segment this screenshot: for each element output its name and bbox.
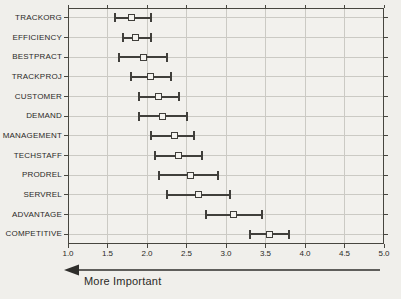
y-tick-mark-left <box>64 214 68 215</box>
error-bar-cap-high <box>217 171 219 180</box>
x-tick-label: 5.0 <box>373 249 395 259</box>
error-bar-cap-high <box>150 33 152 42</box>
y-tick-mark-left <box>64 57 68 58</box>
y-tick-mark-right <box>384 17 388 18</box>
error-bar-cap-high <box>288 230 290 239</box>
gridline-vertical <box>305 9 306 243</box>
category-label: DEMAND <box>0 111 62 121</box>
mean-marker <box>266 231 273 238</box>
mean-marker <box>187 172 194 179</box>
category-label: BESTPRACT <box>0 52 62 62</box>
error-bar-cap-high <box>186 112 188 121</box>
category-label: TRACKPROJ <box>0 72 62 82</box>
x-tick-label: 1.0 <box>57 249 79 259</box>
category-label: COMPETITIVE <box>0 229 62 239</box>
error-bar-cap-high <box>229 190 231 199</box>
figure: TRACKORGEFFICIENCYBESTPRACTTRACKPROJCUST… <box>0 0 401 299</box>
y-tick-mark-left <box>64 194 68 195</box>
error-bar-cap-low <box>130 72 132 81</box>
mean-marker <box>140 54 147 61</box>
x-tick-mark-bottom <box>186 244 187 248</box>
error-bar-cap-high <box>166 53 168 62</box>
error-bar-cap-low <box>249 230 251 239</box>
x-tick-mark-top <box>107 5 108 8</box>
mean-marker <box>171 132 178 139</box>
error-bar-cap-high <box>150 13 152 22</box>
error-bar-cap-low <box>205 210 207 219</box>
y-tick-mark-left <box>64 135 68 136</box>
y-tick-mark-left <box>64 76 68 77</box>
error-bar-cap-high <box>201 151 203 160</box>
y-tick-mark-right <box>384 155 388 156</box>
x-tick-mark-bottom <box>68 244 69 248</box>
y-tick-mark-right <box>384 234 388 235</box>
category-label: MANAGEMENT <box>0 131 62 141</box>
x-tick-label: 2.5 <box>176 249 198 259</box>
y-tick-mark-right <box>384 76 388 77</box>
category-label: PRODREL <box>0 170 62 180</box>
mean-marker <box>195 191 202 198</box>
x-tick-mark-top <box>226 5 227 8</box>
x-tick-mark-top <box>305 5 306 8</box>
mean-marker <box>147 73 154 80</box>
category-label: ADVANTAGE <box>0 210 62 220</box>
x-tick-mark-top <box>344 5 345 8</box>
x-tick-mark-top <box>68 5 69 8</box>
x-tick-mark-top <box>147 5 148 8</box>
y-tick-mark-left <box>64 234 68 235</box>
gridline-vertical <box>226 9 227 243</box>
y-tick-mark-left <box>64 17 68 18</box>
gridline-horizontal <box>69 37 383 38</box>
x-tick-mark-bottom <box>107 244 108 248</box>
y-tick-mark-left <box>64 96 68 97</box>
gridline-horizontal <box>69 57 383 58</box>
gridline-vertical <box>265 9 266 243</box>
x-tick-mark-bottom <box>226 244 227 248</box>
x-tick-label: 2.0 <box>136 249 158 259</box>
x-tick-mark-top <box>265 5 266 8</box>
error-bar-cap-low <box>114 13 116 22</box>
x-tick-mark-bottom <box>147 244 148 248</box>
x-tick-mark-bottom <box>305 244 306 248</box>
gridline-vertical <box>147 9 148 243</box>
x-tick-mark-bottom <box>344 244 345 248</box>
category-label: EFFICIENCY <box>0 33 62 43</box>
error-bar-cap-high <box>261 210 263 219</box>
mean-marker <box>175 152 182 159</box>
gridline-vertical <box>344 9 345 243</box>
error-bar-cap-high <box>178 92 180 101</box>
mean-marker <box>159 113 166 120</box>
gridline-vertical <box>107 9 108 243</box>
y-tick-mark-left <box>64 175 68 176</box>
gridline-horizontal <box>69 234 383 235</box>
x-tick-mark-top <box>384 5 385 8</box>
gridline-horizontal <box>69 175 383 176</box>
y-tick-mark-right <box>384 116 388 117</box>
y-tick-mark-right <box>384 135 388 136</box>
error-bar-cap-low <box>158 171 160 180</box>
gridline-horizontal <box>69 135 383 136</box>
error-bar-cap-low <box>138 112 140 121</box>
y-tick-mark-right <box>384 175 388 176</box>
x-tick-mark-bottom <box>265 244 266 248</box>
x-tick-label: 4.0 <box>294 249 316 259</box>
error-bar-cap-low <box>150 131 152 140</box>
y-tick-mark-left <box>64 155 68 156</box>
y-tick-mark-right <box>384 96 388 97</box>
mean-marker <box>132 34 139 41</box>
gridline-horizontal <box>69 96 383 97</box>
error-bar-cap-low <box>154 151 156 160</box>
category-label: TRACKORG <box>0 13 62 23</box>
category-label: CUSTOMER <box>0 92 62 102</box>
x-tick-label: 1.5 <box>97 249 119 259</box>
error-bar-cap-low <box>122 33 124 42</box>
y-tick-mark-left <box>64 37 68 38</box>
y-tick-mark-left <box>64 116 68 117</box>
y-tick-mark-right <box>384 37 388 38</box>
mean-marker <box>155 93 162 100</box>
error-bar-cap-low <box>138 92 140 101</box>
mean-marker <box>128 14 135 21</box>
gridline-horizontal <box>69 155 383 156</box>
gridline-vertical <box>186 9 187 243</box>
x-tick-mark-top <box>186 5 187 8</box>
